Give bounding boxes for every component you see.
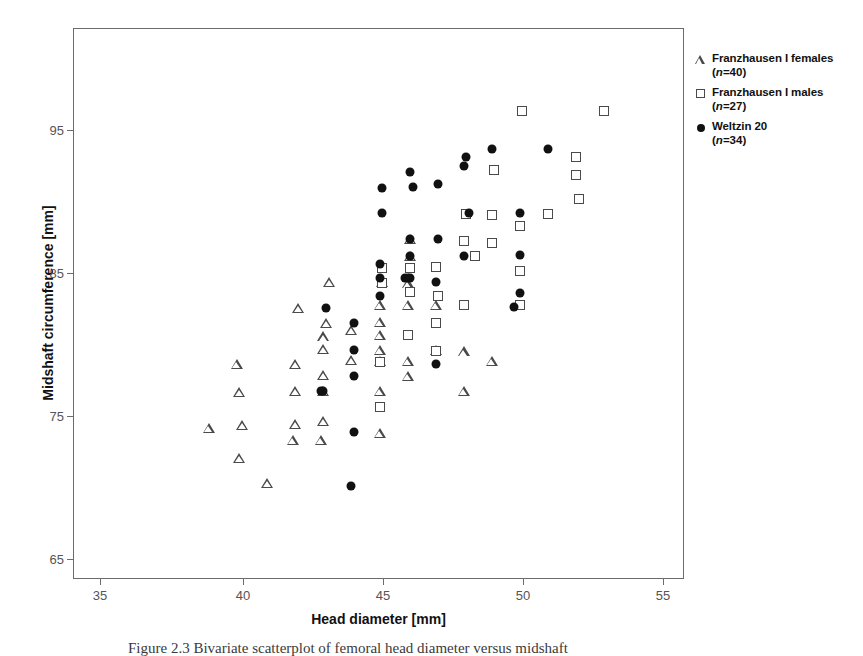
data-point-square <box>375 402 385 412</box>
data-point-square <box>403 330 413 340</box>
x-tick-label-45: 45 <box>376 588 390 603</box>
data-point-circle <box>319 386 328 395</box>
data-point-circle <box>375 291 384 300</box>
plot-frame <box>73 28 684 579</box>
data-point-triangle <box>287 435 299 445</box>
x-tick-35 <box>100 579 101 585</box>
data-point-circle <box>409 182 418 191</box>
data-point-circle <box>350 318 359 327</box>
legend-label-franzhausen-females: Franzhausen I females <box>712 52 863 66</box>
y-tick-label-65: 65 <box>38 552 64 567</box>
data-point-square <box>431 318 441 328</box>
data-point-square <box>487 210 497 220</box>
x-tick-45 <box>383 579 384 585</box>
data-point-circle <box>510 302 519 311</box>
data-point-circle <box>543 144 552 153</box>
data-point-circle <box>378 184 387 193</box>
data-point-triangle <box>430 300 442 310</box>
legend-item-franzhausen-males[interactable]: Franzhausen I males (n=27) <box>695 86 863 113</box>
data-point-triangle <box>374 345 386 355</box>
data-point-circle <box>465 208 474 217</box>
data-point-square <box>459 300 469 310</box>
data-point-triangle <box>374 317 386 327</box>
data-point-triangle <box>345 355 357 365</box>
data-point-triangle <box>236 420 248 430</box>
data-point-triangle <box>374 330 386 340</box>
x-tick-55 <box>663 579 664 585</box>
data-point-square <box>375 357 385 367</box>
data-point-triangle <box>289 359 301 369</box>
data-point-triangle <box>292 303 304 313</box>
legend-item-franzhausen-females[interactable]: Franzhausen I females (n=40) <box>695 52 863 79</box>
x-tick-label-40: 40 <box>236 588 250 603</box>
data-point-square <box>574 194 584 204</box>
y-tick-label-85: 85 <box>38 266 64 281</box>
data-point-square <box>431 346 441 356</box>
data-point-square <box>431 262 441 272</box>
x-tick-label-50: 50 <box>516 588 530 603</box>
data-point-square <box>405 287 415 297</box>
data-point-circle <box>406 167 415 176</box>
x-tick-label-55: 55 <box>656 588 670 603</box>
data-point-circle <box>431 278 440 287</box>
data-point-circle <box>403 273 412 282</box>
data-point-square <box>515 221 525 231</box>
legend: Franzhausen I females (n=40) Franzhausen… <box>695 52 863 154</box>
data-point-triangle <box>402 356 414 366</box>
legend-n-franzhausen-females: (n=40) <box>712 66 863 80</box>
legend-n-weltzin: (n=34) <box>712 134 863 148</box>
legend-label-franzhausen-males: Franzhausen I males <box>712 86 863 100</box>
x-tick-label-35: 35 <box>93 588 107 603</box>
data-point-triangle <box>203 423 215 433</box>
data-point-triangle <box>317 416 329 426</box>
data-point-circle <box>515 288 524 297</box>
circle-marker-icon <box>695 121 709 134</box>
x-tick-40 <box>243 579 244 585</box>
legend-label-weltzin: Weltzin 20 <box>712 120 863 134</box>
data-point-triangle <box>458 346 470 356</box>
data-point-triangle <box>486 356 498 366</box>
data-point-triangle <box>320 318 332 328</box>
data-point-square <box>571 152 581 162</box>
data-point-square <box>487 238 497 248</box>
data-point-circle <box>431 359 440 368</box>
y-axis-title: Midshaft circumference [mm] <box>40 23 56 583</box>
legend-item-weltzin[interactable]: Weltzin 20 (n=34) <box>695 120 863 147</box>
data-point-triangle <box>458 386 470 396</box>
data-point-circle <box>515 208 524 217</box>
data-point-triangle <box>289 419 301 429</box>
data-point-triangle <box>323 277 335 287</box>
data-point-triangle <box>317 331 329 341</box>
plot-data-area <box>74 29 683 578</box>
data-point-triangle <box>402 300 414 310</box>
data-point-circle <box>487 144 496 153</box>
x-tick-50 <box>523 579 524 585</box>
data-point-triangle <box>374 300 386 310</box>
data-point-circle <box>378 208 387 217</box>
square-marker-icon <box>695 87 709 100</box>
data-point-triangle <box>317 344 329 354</box>
data-point-triangle <box>261 478 273 488</box>
figure-container: Midshaft circumference [mm] 95 85 75 65 … <box>0 0 863 656</box>
data-point-triangle <box>374 428 386 438</box>
y-tick-label-75: 75 <box>38 409 64 424</box>
data-point-square <box>543 209 553 219</box>
data-point-triangle <box>231 359 243 369</box>
y-tick-label-95: 95 <box>38 123 64 138</box>
data-point-circle <box>515 250 524 259</box>
data-point-circle <box>459 162 468 171</box>
triangle-marker-icon <box>695 53 709 66</box>
legend-n-franzhausen-males: (n=27) <box>712 100 863 114</box>
data-point-triangle <box>233 387 245 397</box>
figure-caption: Figure 2.3 Bivariate scatterplot of femo… <box>128 640 738 656</box>
data-point-triangle <box>317 370 329 380</box>
data-point-triangle <box>315 435 327 445</box>
data-point-circle <box>375 260 384 269</box>
data-point-triangle <box>233 453 245 463</box>
data-point-square <box>599 106 609 116</box>
data-point-triangle <box>402 371 414 381</box>
data-point-circle <box>375 273 384 282</box>
data-point-square <box>515 266 525 276</box>
data-point-triangle <box>289 386 301 396</box>
data-point-square <box>470 251 480 261</box>
